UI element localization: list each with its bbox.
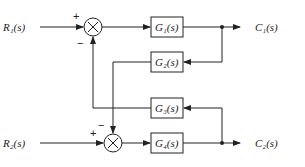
s1-minus-sign: − <box>77 37 83 49</box>
s2-plus-sign: + <box>90 127 96 139</box>
output-c2-label: C₂(s) <box>255 137 278 150</box>
block-g1-label: G₁(s) <box>155 21 179 34</box>
input-r1-label: R₁(s) <box>2 21 25 34</box>
block-g3-label: G₃(s) <box>155 102 179 115</box>
g3-to-s1-line <box>93 37 151 108</box>
s1-plus-sign: + <box>73 10 79 22</box>
c2-to-g3-line <box>184 108 222 143</box>
output-c1-label: C₁(s) <box>255 21 278 34</box>
s2-minus-sign: − <box>98 119 104 131</box>
block-g4-label: G₄(s) <box>155 137 179 150</box>
branch-point-c2 <box>220 141 224 145</box>
g2-to-s2-line <box>113 62 151 133</box>
input-r2-label: R₂(s) <box>2 137 25 150</box>
block-diagram: R₁(s) R₂(s) C₁(s) C₂(s) G₁(s) G₂(s) G₃(s… <box>0 0 305 167</box>
block-g2-label: G₂(s) <box>155 56 179 69</box>
branch-point-c1 <box>220 25 224 29</box>
c1-to-g2-line <box>184 27 222 62</box>
